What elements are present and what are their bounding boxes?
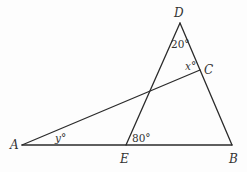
vertex-label-c: C (204, 63, 213, 77)
angle-label-a: y° (54, 132, 66, 144)
degree-symbol: ° (191, 60, 196, 72)
angle-label-e: 80° (132, 132, 151, 144)
angle-label-d: 20° (171, 38, 190, 50)
vertex-label-d: D (173, 6, 184, 20)
geometry-diagram: D C A E B 20° x° y° 80° (0, 0, 247, 172)
segment-ac (22, 70, 200, 145)
degree-symbol: ° (61, 132, 66, 144)
diagram-canvas: D C A E B 20° x° y° 80° (0, 0, 247, 172)
vertex-label-e: E (119, 152, 129, 166)
vertex-label-a: A (9, 138, 19, 152)
angle-label-c: x° (185, 60, 196, 72)
vertex-label-b: B (228, 152, 238, 166)
